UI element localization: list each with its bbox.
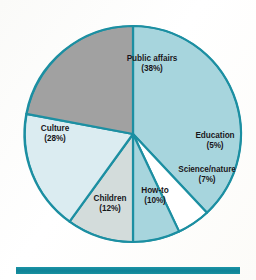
slice-label-education-name: Education xyxy=(195,131,234,140)
slice-label-how-to-pct: (10%) xyxy=(131,196,179,206)
slice-label-culture: Culture (28%) xyxy=(24,124,86,144)
slice-label-culture-name: Culture xyxy=(41,124,69,133)
footer-caption xyxy=(16,276,240,280)
pie-chart: Public affairs (38%) Culture (28%) Educa… xyxy=(0,0,256,256)
slice-label-how-to: How-to (10%) xyxy=(131,186,179,206)
slice-label-science-nature-pct: (7%) xyxy=(166,175,248,185)
slice-label-how-to-name: How-to xyxy=(141,186,168,195)
slice-label-public-affairs: Public affairs (38%) xyxy=(112,54,192,74)
slice-label-children-name: Children xyxy=(94,194,127,203)
slice-label-public-affairs-name: Public affairs xyxy=(127,54,178,63)
slice-label-culture-pct: (28%) xyxy=(24,134,86,144)
slice-label-science-nature: Science/nature (7%) xyxy=(166,165,248,185)
slice-label-science-nature-name: Science/nature xyxy=(178,165,236,174)
slice-label-children-pct: (12%) xyxy=(82,204,138,214)
footer-rule xyxy=(16,267,240,274)
slice-label-education-pct: (5%) xyxy=(182,141,248,151)
slice-label-children: Children (12%) xyxy=(82,194,138,214)
slice-label-public-affairs-pct: (38%) xyxy=(112,64,192,74)
pie-slice-culture[interactable] xyxy=(26,26,133,134)
slice-label-education: Education (5%) xyxy=(182,131,248,151)
